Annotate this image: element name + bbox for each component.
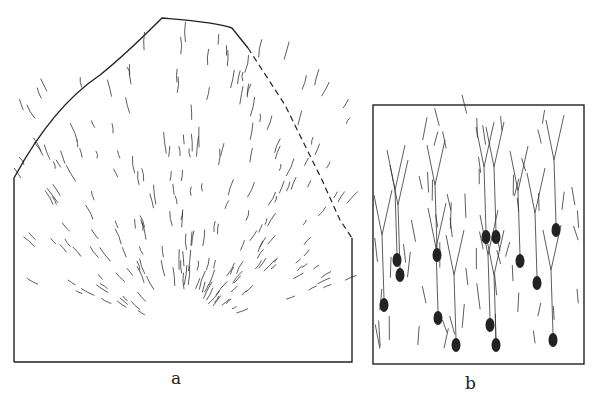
panel-a-label: a	[171, 368, 181, 388]
panel-b-label: b	[465, 373, 476, 393]
panel-a	[14, 18, 358, 362]
panel-a-outline	[14, 18, 248, 362]
figure-canvas	[0, 0, 594, 404]
panel-a-dashed-edge	[248, 48, 352, 238]
panel-b	[373, 95, 584, 364]
